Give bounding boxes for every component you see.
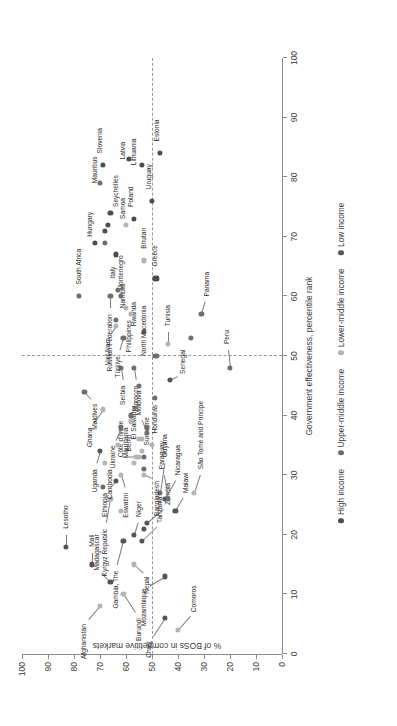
x-tick: [283, 117, 287, 118]
data-point[interactable]: [152, 395, 157, 400]
data-point[interactable]: [108, 294, 113, 299]
x-tick-label: 20: [289, 530, 299, 539]
data-point[interactable]: [142, 258, 147, 263]
data-point[interactable]: [175, 628, 180, 633]
data-point[interactable]: [139, 449, 144, 454]
point-label: Maldives: [92, 404, 99, 430]
legend-label: High income: [336, 469, 346, 515]
legend-marker-icon: [338, 350, 343, 355]
data-point[interactable]: [103, 461, 108, 466]
point-label: Senegal: [180, 350, 187, 374]
x-tick: [283, 653, 287, 654]
point-label: Uganda: [92, 469, 99, 492]
data-point[interactable]: [142, 467, 147, 472]
data-point[interactable]: [162, 574, 167, 579]
y-tick-label: 0: [277, 662, 287, 667]
y-tick-label: 10: [251, 662, 261, 671]
data-point[interactable]: [103, 240, 108, 245]
legend-item[interactable]: Upper-middle income: [336, 369, 346, 456]
data-point[interactable]: [97, 181, 102, 186]
point-label: Lithuania: [131, 139, 138, 166]
data-point[interactable]: [131, 365, 136, 370]
point-label: Türkiye: [115, 356, 122, 378]
data-point[interactable]: [173, 508, 178, 513]
point-label: Nepal: [144, 577, 151, 594]
data-point[interactable]: [149, 198, 154, 203]
point-label: Honduras: [151, 405, 158, 434]
data-point[interactable]: [144, 520, 149, 525]
legend-marker-icon: [338, 250, 343, 255]
data-point[interactable]: [191, 491, 196, 496]
data-point[interactable]: [97, 449, 102, 454]
chart-legend: High incomeUpper-middle incomeLower-midd…: [336, 203, 346, 524]
y-tick: [282, 655, 283, 659]
legend-item[interactable]: High income: [336, 469, 346, 524]
legend-item[interactable]: Lower-middle income: [336, 268, 346, 355]
x-tick: [283, 415, 287, 416]
data-point[interactable]: [105, 222, 110, 227]
data-point[interactable]: [227, 365, 232, 370]
point-label: Guyana: [162, 434, 169, 457]
data-point[interactable]: [113, 479, 118, 484]
data-point[interactable]: [113, 324, 118, 329]
data-point[interactable]: [131, 532, 136, 537]
x-tick: [283, 57, 287, 58]
legend-marker-icon: [338, 518, 343, 523]
data-point[interactable]: [123, 306, 128, 311]
data-point[interactable]: [103, 228, 108, 233]
data-point[interactable]: [113, 318, 118, 323]
data-point[interactable]: [131, 216, 136, 221]
legend-label: Upper-middle income: [336, 369, 346, 448]
x-tick: [283, 474, 287, 475]
point-label: Tunisia: [164, 305, 171, 326]
point-label: Uruguay: [146, 164, 153, 189]
data-point[interactable]: [64, 544, 69, 549]
data-point[interactable]: [123, 222, 128, 227]
x-tick-label: 80: [289, 172, 299, 181]
point-label: Philippines: [125, 320, 132, 352]
y-tick-label: 70: [95, 662, 105, 671]
data-point[interactable]: [121, 538, 126, 543]
data-point[interactable]: [142, 526, 147, 531]
point-label: Latvia: [120, 142, 127, 160]
y-tick: [22, 655, 23, 659]
data-point[interactable]: [77, 294, 82, 299]
y-tick: [126, 655, 127, 659]
point-label: Estonia: [154, 119, 161, 141]
data-point[interactable]: [157, 151, 162, 156]
x-tick-label: 10: [289, 590, 299, 599]
data-point[interactable]: [136, 383, 141, 388]
point-label: Russian Federation: [107, 314, 114, 371]
data-point[interactable]: [97, 604, 102, 609]
data-point[interactable]: [100, 407, 105, 412]
data-point[interactable]: [100, 163, 105, 168]
rotated-figure-wrapper: 0102030405060708090100010203040506070809…: [0, 0, 397, 726]
data-point[interactable]: [108, 210, 113, 215]
data-point[interactable]: [92, 240, 97, 245]
data-point[interactable]: [162, 616, 167, 621]
point-label: Bhutan: [141, 228, 148, 249]
data-point[interactable]: [165, 342, 170, 347]
y-tick-label: 50: [147, 662, 157, 671]
point-label: Poland: [128, 186, 135, 207]
point-label: Gambia, The: [112, 571, 119, 609]
data-point[interactable]: [142, 473, 147, 478]
legend-label: Low income: [336, 203, 346, 247]
data-point[interactable]: [142, 455, 147, 460]
data-point[interactable]: [100, 485, 105, 490]
legend-item[interactable]: Low income: [336, 203, 346, 256]
data-point[interactable]: [199, 312, 204, 317]
data-point[interactable]: [188, 336, 193, 341]
data-point[interactable]: [131, 461, 136, 466]
point-label: Morocco: [133, 386, 140, 411]
point-label: Mauritius: [92, 156, 99, 183]
data-point[interactable]: [168, 377, 173, 382]
data-point[interactable]: [149, 443, 154, 448]
data-point[interactable]: [139, 163, 144, 168]
point-label: Ghana: [86, 428, 93, 448]
x-tick: [283, 176, 287, 177]
point-label: Seychelles: [112, 175, 119, 207]
scatter-chart-figure: 0102030405060708090100010203040506070809…: [0, 0, 397, 726]
data-point[interactable]: [139, 538, 144, 543]
data-point[interactable]: [155, 353, 160, 358]
